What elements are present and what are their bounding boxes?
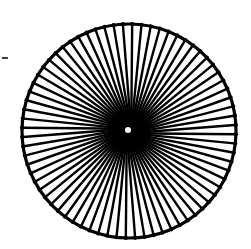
rim-bead [169,227,173,231]
rim-bead [234,132,238,136]
rim-bead [222,177,226,181]
rim-bead [23,153,27,157]
rim-bead [29,171,33,175]
rim-bead [105,234,109,238]
rim-bead [102,25,106,29]
rim-bead [33,180,37,184]
rim-bead [21,144,25,148]
rim-bead [158,26,162,30]
rim-bead [63,215,67,219]
rim-bead [229,160,233,164]
rim-bead [22,107,26,111]
rim-bead [25,162,29,166]
rim-bead [133,236,137,240]
rim-bead [124,236,128,240]
rim-bead [205,56,209,60]
rim-bead [178,223,182,227]
rim-bead [47,58,51,62]
rim-bead [225,87,229,91]
rim-bead [71,220,75,224]
spoked-wheel-drawing [0,0,251,249]
rim-bead [36,73,40,77]
rim-bead [121,22,125,26]
wheel-hub [125,127,131,133]
rim-bead [211,63,215,67]
rim-bead [142,235,146,239]
rim-bead [149,24,153,28]
rim-bead [160,231,164,235]
rim-bead [68,39,72,43]
rim-bead [37,188,41,192]
rim-bead [85,31,89,35]
rim-bead [130,22,134,26]
rim-bead [28,89,32,93]
rim-bead [234,123,238,127]
rim-bead [186,218,190,222]
rim-bead [43,195,47,199]
rim-bead [49,202,53,206]
illustration-canvas [0,0,251,249]
rim-bead [96,231,100,235]
rim-bead [207,200,211,204]
rim-bead [93,27,97,31]
rim-bead [216,70,220,74]
rim-bead [20,135,24,139]
rim-bead [111,23,115,27]
rim-bead [151,233,155,237]
rim-bead [87,228,91,232]
rim-bead [56,209,60,213]
rim-bead [193,213,197,217]
rim-bead [221,78,225,82]
rim-bead [229,95,233,99]
rim-bead [232,151,236,155]
rim-bead [20,126,24,130]
rim-bead [183,38,187,42]
rim-bead [79,224,83,228]
rim-bead [114,235,118,239]
rim-bead [198,49,202,53]
rim-bead [218,185,222,189]
rim-bead [231,104,235,108]
rim-bead [213,193,217,197]
rim-bead [233,113,237,117]
rim-bead [54,51,58,55]
rim-bead [139,23,143,27]
rim-bead [233,141,237,145]
rim-bead [76,35,80,39]
rim-bead [200,207,204,211]
rim-bead [191,43,195,47]
rim-bead [167,30,171,34]
rim-bead [24,98,28,102]
rim-bead [41,65,45,69]
rim-bead [175,33,179,37]
rim-bead [226,169,230,173]
rim-bead [31,81,35,85]
rim-bead [61,45,65,49]
rim-bead [21,116,25,120]
